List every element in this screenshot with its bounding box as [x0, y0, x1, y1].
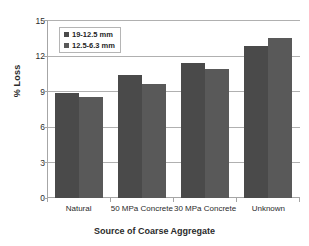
bar-chart: % Loss 15 12 9 6 3 0	[0, 0, 309, 246]
legend-item-19-12.5: 19-12.5 mm	[64, 31, 115, 39]
x-tick-mark-0	[47, 198, 48, 202]
x-tick-label-30-mpa-concrete: 30 MPa Concrete	[174, 205, 237, 214]
legend-swatch-icon-series-0	[64, 32, 69, 37]
y-tick-label-0: 0	[21, 194, 45, 203]
bar-group-30-mpa-concrete	[174, 20, 237, 198]
x-tick-label-50-mpa-concrete: 50 MPa Concrete	[110, 205, 173, 214]
bar-unknown-19-12.5	[244, 46, 268, 198]
x-tick-mark-3	[236, 198, 237, 202]
bar-unknown-12.5-6.3	[268, 38, 292, 198]
y-axis-title: % Loss	[12, 36, 22, 126]
x-tick-mark-2	[173, 198, 174, 202]
bar-group-unknown	[237, 20, 300, 198]
bar-30mpa-19-12.5	[181, 63, 205, 198]
bar-30mpa-12.5-6.3	[205, 69, 229, 198]
x-tick-mark-1	[110, 198, 111, 202]
y-tick-label-15: 15	[21, 17, 45, 26]
x-tick-mark-4	[299, 198, 300, 202]
legend-item-12.5-6.3: 12.5-6.3 mm	[64, 42, 115, 50]
legend-label-series-0: 19-12.5 mm	[72, 31, 113, 39]
y-tick-label-6: 6	[21, 123, 45, 132]
x-tick-label-unknown: Unknown	[237, 205, 300, 214]
legend: 19-12.5 mm 12.5-6.3 mm	[59, 27, 121, 53]
x-axis-tick-labels: Natural 50 MPa Concrete 30 MPa Concrete …	[47, 205, 300, 214]
bar-50mpa-19-12.5	[118, 75, 142, 198]
y-tick-label-9: 9	[21, 88, 45, 97]
y-tick-label-3: 3	[21, 159, 45, 168]
bar-natural-12.5-6.3	[79, 97, 103, 198]
bar-natural-19-12.5	[55, 93, 79, 198]
x-axis-title: Source of Coarse Aggregate	[0, 226, 309, 236]
x-tick-label-natural: Natural	[47, 205, 110, 214]
y-tick-label-12: 12	[21, 52, 45, 61]
legend-swatch-icon-series-1	[64, 43, 69, 48]
bar-50mpa-12.5-6.3	[142, 84, 166, 199]
legend-label-series-1: 12.5-6.3 mm	[72, 42, 115, 50]
